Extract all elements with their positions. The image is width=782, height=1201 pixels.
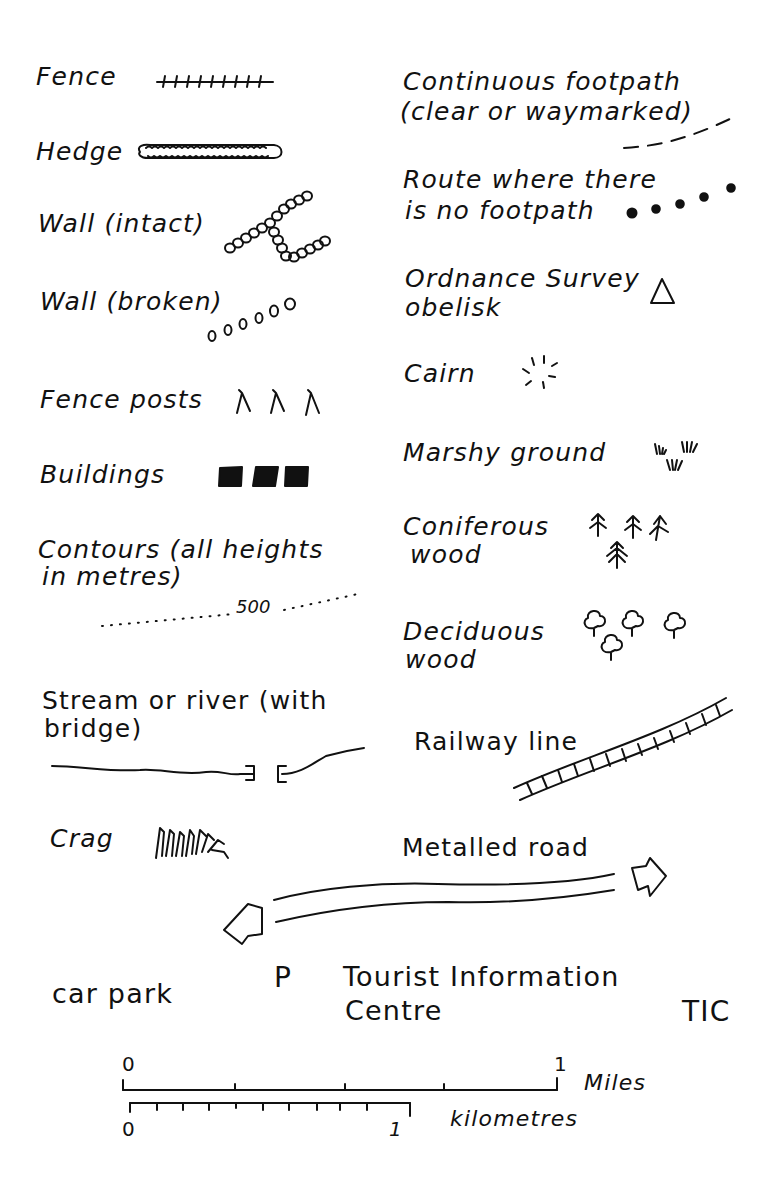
building-squares-icon	[218, 466, 310, 488]
legend-label-coniferous-line2: wood	[410, 540, 482, 569]
legend-label-tic-line2: Centre	[345, 996, 442, 1025]
legend-label-crag: Crag	[50, 824, 114, 853]
miles-scale	[123, 1078, 557, 1090]
dashed-footpath-icon	[620, 114, 740, 158]
legend-label-hedge: Hedge	[36, 137, 123, 166]
legend-label-tic: Tourist Information	[343, 962, 619, 991]
legend-label-fence: Fence	[36, 62, 117, 91]
fence-line-icon	[155, 74, 275, 88]
legend-label-fence-posts: Fence posts	[40, 385, 203, 414]
contour-value-label: 500	[236, 596, 270, 617]
legend-label-wall-broken: Wall (broken)	[40, 287, 223, 316]
legend-label-contours: Contours (all heights	[38, 535, 324, 564]
legend-label-obelisk: Ordnance Survey	[405, 264, 640, 293]
miles-start-label: 0	[122, 1052, 135, 1076]
legend-label-coniferous: Coniferous	[403, 512, 549, 541]
legend-label-route: Route where there	[403, 165, 657, 194]
wall-broken-circles-icon	[204, 292, 308, 344]
conifer-trees-icon	[588, 512, 688, 574]
railway-track-icon	[510, 694, 736, 806]
tic-symbol: TIC	[682, 997, 731, 1026]
legend-label-wall-intact: Wall (intact)	[38, 209, 205, 238]
legend-label-buildings: Buildings	[40, 460, 165, 489]
miles-end-label: 1	[554, 1052, 567, 1076]
legend-label-obelisk-line2: obelisk	[405, 293, 501, 322]
wall-intact-circles-icon	[222, 190, 334, 270]
contour-dotted-line-icon	[98, 588, 362, 630]
legend-label-deciduous-line2: wood	[405, 645, 477, 674]
legend-label-stream-line2: bridge)	[44, 714, 142, 743]
double-line-road-arrows-icon	[218, 856, 666, 948]
hedge-line-icon	[134, 140, 286, 164]
car-park-symbol: P	[274, 963, 292, 992]
marsh-tufts-icon	[652, 440, 706, 480]
legend-label-contours-line2: in metres)	[42, 562, 183, 591]
road-arrow-right-icon	[632, 858, 666, 896]
fence-post-marks-icon	[234, 387, 330, 417]
legend-label-marshy: Marshy ground	[403, 438, 606, 467]
cairn-burst-icon	[518, 352, 562, 392]
legend-label-deciduous: Deciduous	[403, 617, 545, 646]
legend-label-car-park: car park	[52, 979, 173, 1008]
deciduous-trees-icon	[580, 608, 700, 668]
kilometres-scale	[130, 1103, 410, 1116]
km-unit-label: kilometres	[450, 1104, 578, 1133]
km-start-label: 0	[122, 1117, 135, 1141]
legend-label-cairn: Cairn	[404, 359, 476, 388]
legend-label-stream: Stream or river (with	[42, 686, 328, 715]
triangle-obelisk-icon	[648, 276, 678, 306]
legend-label-footpath: Continuous footpath	[403, 67, 681, 96]
legend-label-route-line2: is no footpath	[405, 196, 595, 225]
road-arrow-left-icon	[224, 904, 262, 944]
km-end-label: 1	[389, 1117, 402, 1141]
dotted-route-icon	[620, 180, 740, 224]
stream-with-bridge-icon	[50, 744, 366, 790]
miles-unit-label: Miles	[584, 1068, 646, 1097]
